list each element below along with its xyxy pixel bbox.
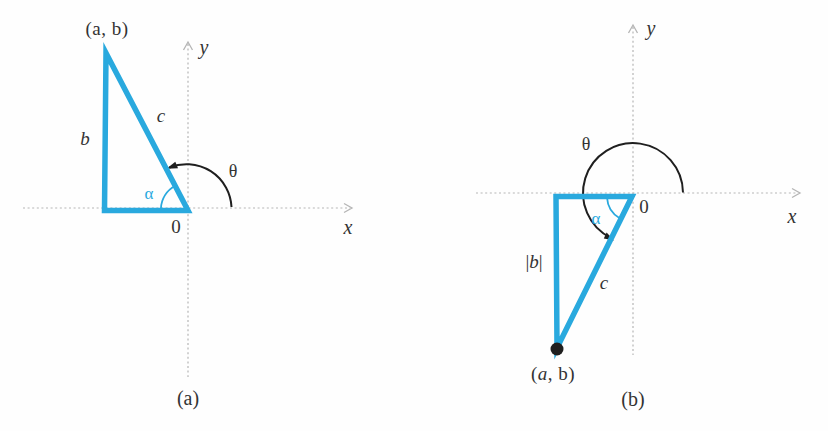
paren-close: ) — [568, 363, 575, 384]
comma: , — [548, 363, 559, 384]
point-dot-b — [551, 343, 564, 356]
y-axis-label-b: y — [647, 18, 656, 38]
figure-canvas — [0, 0, 828, 431]
y-axis-label-a: y — [200, 37, 209, 57]
side-c-label-b: c — [600, 273, 608, 292]
theta-label-b: θ — [582, 135, 591, 153]
theta-label-a: θ — [229, 162, 238, 180]
side-b-label-a: b — [80, 129, 90, 148]
theta-arc-a — [170, 164, 232, 207]
panel-a-drawing — [23, 42, 352, 377]
origin-label-b: 0 — [639, 197, 649, 216]
abs-b: b — [529, 251, 539, 272]
x-axis-label-a: x — [344, 217, 353, 237]
alpha-label-b: α — [592, 210, 601, 227]
point-label-b: (a, b) — [531, 364, 575, 383]
coord-b: b — [558, 363, 568, 384]
reference-angle-figure: (a, b) y x 0 b c α θ (a) y x 0 |b| c α θ… — [0, 0, 828, 431]
paren-open: ( — [531, 363, 538, 384]
alpha-arc-b — [607, 198, 620, 219]
coord-a: a — [538, 363, 548, 384]
caption-a: (a) — [177, 388, 199, 408]
abs-bar-right: | — [539, 251, 543, 272]
origin-label-a: 0 — [171, 217, 181, 236]
alpha-arc-a — [161, 186, 175, 208]
side-c-label-a: c — [157, 106, 165, 125]
panel-b-drawing — [476, 25, 800, 356]
alpha-label-a: α — [145, 185, 154, 202]
side-b-abs-label-b: |b| — [525, 252, 542, 271]
point-label-a: (a, b) — [85, 19, 128, 38]
x-axis-arrowhead-b — [792, 189, 800, 198]
caption-b: (b) — [621, 389, 644, 409]
x-axis-label-b: x — [788, 206, 797, 226]
